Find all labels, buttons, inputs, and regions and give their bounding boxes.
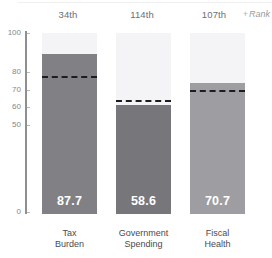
y-tick-label-80: 80	[2, 68, 21, 76]
y-tick-mark-50	[27, 125, 30, 126]
y-tick-mark-60	[27, 107, 30, 108]
category-label-fiscal-health: Fiscal Health	[190, 228, 245, 249]
y-tick-label-70: 70	[2, 86, 21, 94]
reference-line-government-spending	[116, 100, 171, 102]
bar-background-fiscal-health	[190, 33, 245, 83]
reference-line-tax-burden	[42, 76, 97, 78]
y-tick-mark-0	[27, 212, 30, 213]
bar-group-fiscal-health: 70.7	[190, 0, 245, 258]
bar-group-tax-burden: 87.7	[42, 0, 97, 258]
bar-group-government-spending: 58.6	[116, 0, 171, 258]
y-tick-label-100: 100	[2, 29, 21, 37]
y-tick-mark-70	[27, 90, 30, 91]
category-label-government-spending: Government Spending	[108, 228, 179, 249]
bar-value-government-spending: 58.6	[116, 194, 171, 208]
y-axis-line	[25, 31, 27, 214]
bar-value-fiscal-health: 70.7	[190, 194, 245, 208]
plot-area: 100 80 70 60 50 0 87.7 58.6	[0, 0, 272, 258]
bar-value-tax-burden: 87.7	[42, 194, 97, 208]
bar-tax-burden[interactable]	[42, 54, 97, 214]
y-tick-mark-80	[27, 72, 30, 73]
bar-background-government-spending	[116, 33, 171, 105]
reference-line-fiscal-health	[190, 90, 245, 92]
category-label-tax-burden: Tax Burden	[42, 228, 97, 249]
component-score-bar-chart: 34th 114th 107th +Rank 100 80 70 60 50 0…	[0, 0, 272, 258]
y-tick-label-0: 0	[2, 208, 21, 216]
y-tick-mark-100	[27, 33, 30, 34]
bar-background-tax-burden	[42, 33, 97, 54]
y-tick-label-60: 60	[2, 103, 21, 111]
y-tick-label-50: 50	[2, 121, 21, 129]
